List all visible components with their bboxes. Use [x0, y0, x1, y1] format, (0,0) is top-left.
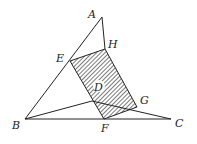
label-G: G [140, 94, 149, 107]
segment-AH [102, 17, 105, 49]
geometry-diagram: A H E D G B F C [0, 0, 197, 144]
label-F: F [100, 122, 109, 135]
label-B: B [11, 119, 20, 132]
label-H: H [107, 38, 118, 51]
segment-BD [25, 101, 92, 119]
label-C: C [175, 117, 184, 130]
label-E: E [55, 52, 64, 65]
label-D: D [93, 81, 103, 94]
label-A: A [87, 8, 96, 21]
